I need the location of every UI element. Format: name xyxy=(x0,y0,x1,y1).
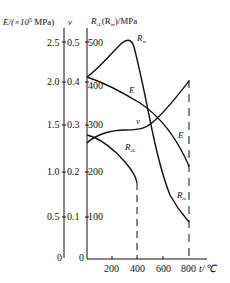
label-nu: ν xyxy=(136,116,140,126)
svg-text:400: 400 xyxy=(130,263,145,274)
svg-text:0.5: 0.5 xyxy=(47,211,60,222)
e-axis-ticks: 2.5 2.0 1.5 1.0 0.5 0 xyxy=(47,37,66,263)
svg-text:200: 200 xyxy=(104,263,119,274)
label-e: E xyxy=(128,85,135,95)
x-axis-title: t/℃ xyxy=(199,263,218,274)
svg-text:600: 600 xyxy=(156,263,171,274)
svg-text:0.3: 0.3 xyxy=(67,119,80,130)
svg-text:100: 100 xyxy=(88,211,103,222)
svg-text:1.0: 1.0 xyxy=(47,166,60,177)
r-axis-title: ReL(Rm)/MPa xyxy=(90,16,137,27)
e-axis-title: E/(×105 MPa) xyxy=(2,17,54,27)
svg-text:1.5: 1.5 xyxy=(47,119,60,130)
svg-text:2.5: 2.5 xyxy=(47,37,60,48)
label-e-right: E xyxy=(177,130,184,140)
svg-text:0.4: 0.4 xyxy=(67,76,80,87)
svg-text:200: 200 xyxy=(88,166,103,177)
svg-text:800: 800 xyxy=(181,263,196,274)
label-rm-low: Rm xyxy=(176,190,187,201)
label-rel: ReL xyxy=(124,142,136,153)
nu-axis-ticks: 0.5 0.4 0.3 0.2 0.1 0 xyxy=(67,37,84,263)
svg-text:2.0: 2.0 xyxy=(47,76,60,87)
svg-text:0.1: 0.1 xyxy=(67,211,80,222)
svg-text:0: 0 xyxy=(79,252,84,263)
svg-text:500: 500 xyxy=(88,37,103,48)
label-rm: Rm xyxy=(136,33,147,44)
svg-text:0: 0 xyxy=(57,252,62,263)
chart: E/(×105 MPa) ν ReL(Rm)/MPa 2.5 2.0 1.5 1… xyxy=(0,0,230,283)
svg-text:0.5: 0.5 xyxy=(67,37,80,48)
curve-rm xyxy=(87,40,189,222)
svg-text:300: 300 xyxy=(88,119,103,130)
nu-axis-title: ν xyxy=(68,17,72,27)
svg-text:0.2: 0.2 xyxy=(67,166,80,177)
